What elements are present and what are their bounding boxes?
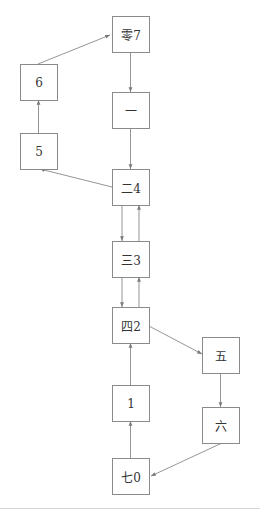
- node-si2: 四2: [112, 307, 150, 344]
- node-label: 四2: [121, 317, 141, 334]
- node-label: 1: [127, 397, 135, 411]
- edge-er4-5: [40, 169, 112, 187]
- edge-si2-wu: [149, 326, 202, 354]
- node-label: 五: [215, 347, 227, 364]
- node-6: 6: [20, 64, 58, 101]
- node-label: 六: [215, 417, 227, 434]
- node-er4: 二4: [112, 169, 150, 206]
- edge-6-ling7: [38, 35, 110, 64]
- node-label: 一: [125, 102, 137, 119]
- node-5: 5: [20, 133, 58, 170]
- node-san3: 三3: [112, 241, 150, 278]
- edge-liu-qi0: [151, 443, 222, 476]
- node-qi0: 七0: [112, 458, 150, 495]
- node-label: 二4: [121, 179, 141, 196]
- node-yi: 一: [112, 92, 150, 129]
- node-label: 七0: [121, 468, 141, 485]
- node-1: 1: [112, 385, 150, 422]
- node-label: 三3: [121, 251, 141, 268]
- node-wu: 五: [202, 337, 240, 374]
- node-label: 6: [35, 76, 43, 90]
- node-label: 5: [35, 145, 43, 159]
- separator-line: [0, 508, 260, 509]
- diagram-canvas: 零7 一 二4 三3 四2 1 七0 6 5 五 六: [0, 0, 260, 522]
- node-ling7: 零7: [112, 16, 150, 53]
- node-liu: 六: [202, 407, 240, 444]
- node-label: 零7: [121, 26, 141, 43]
